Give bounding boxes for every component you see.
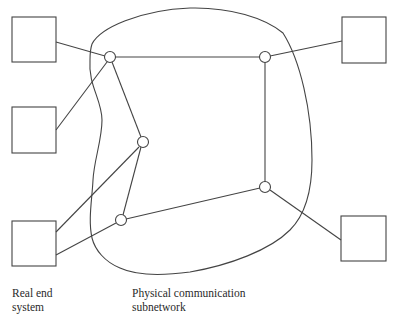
- network-diagram: [0, 0, 395, 318]
- link: [56, 223, 116, 255]
- switch-node: [260, 182, 271, 193]
- link: [56, 62, 107, 130]
- link: [270, 190, 341, 240]
- switch-node: [105, 52, 116, 63]
- link: [56, 42, 105, 56]
- end-system-box: [341, 216, 386, 261]
- link: [112, 62, 141, 137]
- end-system-box: [12, 221, 56, 266]
- link: [126, 188, 260, 219]
- switch-node: [138, 137, 149, 148]
- link: [123, 147, 141, 215]
- switch-node: [116, 215, 127, 226]
- end-system-box: [342, 17, 386, 63]
- switch-node: [260, 52, 271, 63]
- end-system-label: Real end system: [12, 286, 72, 314]
- subnetwork-boundary: [90, 8, 312, 274]
- link: [270, 41, 342, 56]
- end-system-box: [12, 17, 56, 62]
- end-system-box: [12, 107, 56, 153]
- subnetwork-label: Physical communication subnetwork: [132, 286, 292, 314]
